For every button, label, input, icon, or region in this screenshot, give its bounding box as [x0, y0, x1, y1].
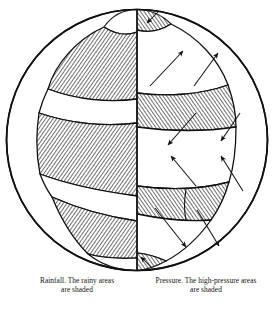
globe-diagram-figure: Rainfall. The rainy areas are shaded Pre…	[0, 0, 274, 310]
caption-rainfall-line1: Rainfall. The rainy areas	[14, 276, 140, 285]
caption-rainfall: Rainfall. The rainy areas are shaded	[0, 276, 140, 294]
caption-row: Rainfall. The rainy areas are shaded Pre…	[0, 276, 274, 294]
caption-rainfall-line2: are shaded	[14, 285, 140, 294]
globe-illustration	[0, 0, 274, 310]
caption-pressure-line1: Pressure. The high-pressure areas	[140, 276, 272, 285]
band-right-equatorial-low	[137, 127, 236, 189]
caption-pressure-line2: are shaded	[140, 285, 272, 294]
caption-pressure: Pressure. The high-pressure areas are sh…	[140, 276, 274, 294]
